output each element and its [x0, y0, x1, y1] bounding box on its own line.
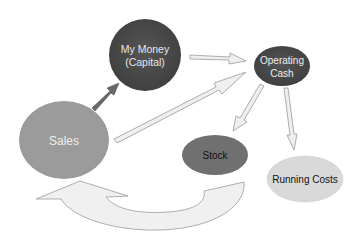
- node-running-costs: Running Costs: [267, 156, 343, 202]
- arrow-sales-to-capital: [92, 83, 119, 111]
- arrow-capital-to-operating-cash: [190, 53, 246, 64]
- node-operating-cash-label-line2: Cash: [270, 68, 293, 79]
- node-sales-label: Sales: [49, 134, 79, 148]
- node-operating-cash: Operating Cash: [254, 46, 310, 86]
- diagram-canvas: My Money (Capital) Operating Cash Sales …: [0, 0, 359, 242]
- arrow-operating-cash-to-stock: [233, 84, 264, 131]
- node-sales: Sales: [19, 101, 109, 179]
- arrow-operating-cash-to-running-costs: [284, 88, 297, 150]
- node-stock: Stock: [182, 135, 248, 175]
- node-operating-cash-label-line1: Operating: [260, 55, 304, 66]
- node-running-costs-label: Running Costs: [272, 174, 338, 185]
- node-capital: My Money (Capital): [109, 19, 181, 91]
- curved-return-arrow: [36, 181, 244, 230]
- node-stock-label: Stock: [202, 150, 228, 161]
- node-capital-label-line1: My Money: [121, 43, 170, 55]
- node-capital-label-line2: (Capital): [125, 56, 165, 68]
